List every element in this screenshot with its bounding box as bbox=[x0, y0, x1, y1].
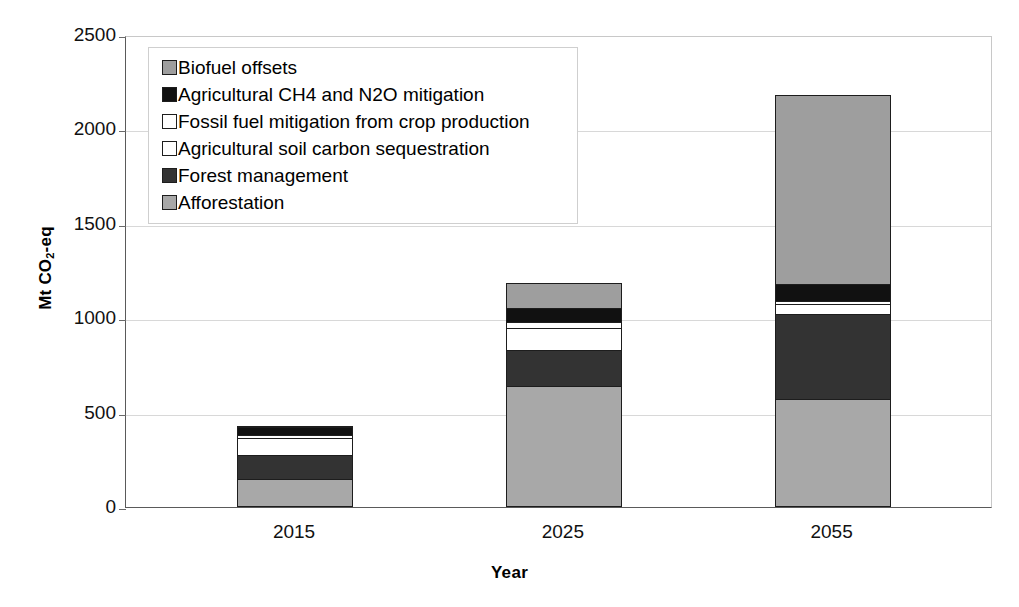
legend-label: Fossil fuel mitigation from crop product… bbox=[178, 112, 530, 131]
legend-swatch-icon bbox=[162, 114, 177, 129]
stacked-bar[interactable] bbox=[237, 426, 353, 507]
legend-swatch-icon bbox=[162, 195, 177, 210]
legend-label: Afforestation bbox=[178, 193, 284, 212]
legend-label: Forest management bbox=[178, 166, 348, 185]
y-axis-tick-label: 0 bbox=[38, 496, 116, 518]
bar-segment[interactable] bbox=[237, 438, 353, 456]
bar-segment[interactable] bbox=[237, 479, 353, 507]
legend-swatch-icon bbox=[162, 141, 177, 156]
y-axis-tick bbox=[119, 415, 126, 416]
bar-segment[interactable] bbox=[506, 328, 622, 352]
legend-item[interactable]: Afforestation bbox=[149, 189, 577, 216]
y-axis-tick bbox=[119, 37, 126, 38]
bar-segment[interactable] bbox=[506, 386, 622, 507]
y-axis-tick-label: 1000 bbox=[38, 307, 116, 329]
stacked-bar[interactable] bbox=[775, 95, 891, 507]
y-axis-tick bbox=[119, 320, 126, 321]
y-axis-tick-labels: 05001000150020002500 bbox=[38, 36, 116, 508]
legend-swatch-icon bbox=[162, 87, 177, 102]
y-axis-tick-label: 500 bbox=[38, 402, 116, 424]
bar-segment[interactable] bbox=[506, 283, 622, 309]
legend-label: Biofuel offsets bbox=[178, 58, 297, 77]
bar-segment[interactable] bbox=[506, 350, 622, 387]
y-axis-tick-label: 2500 bbox=[38, 24, 116, 46]
legend-item[interactable]: Forest management bbox=[149, 162, 577, 189]
bar-segment[interactable] bbox=[775, 314, 891, 401]
x-axis-tick-label: 2025 bbox=[503, 521, 623, 543]
bar-segment[interactable] bbox=[506, 308, 622, 323]
stacked-bar[interactable] bbox=[506, 283, 622, 507]
y-axis-tick bbox=[119, 509, 126, 510]
y-axis-tick bbox=[119, 226, 126, 227]
bar-segment[interactable] bbox=[775, 95, 891, 286]
y-axis-tick bbox=[119, 131, 126, 132]
legend-label: Agricultural CH4 and N2O mitigation bbox=[178, 85, 484, 104]
legend-item[interactable]: Agricultural soil carbon sequestration bbox=[149, 135, 577, 162]
legend-item[interactable]: Fossil fuel mitigation from crop product… bbox=[149, 108, 577, 135]
y-axis-tick-label: 2000 bbox=[38, 118, 116, 140]
y-axis-tick-label: 1500 bbox=[38, 213, 116, 235]
legend-swatch-icon bbox=[162, 60, 177, 75]
bar-segment[interactable] bbox=[775, 399, 891, 507]
legend-item[interactable]: Agricultural CH4 and N2O mitigation bbox=[149, 81, 577, 108]
x-axis-title: Year bbox=[0, 563, 1019, 583]
stacked-bar-chart: Mt CO2-eq 05001000150020002500 201520252… bbox=[0, 0, 1019, 607]
legend-label: Agricultural soil carbon sequestration bbox=[178, 139, 490, 158]
legend: Biofuel offsetsAgricultural CH4 and N2O … bbox=[148, 47, 578, 224]
x-axis-tick-label: 2015 bbox=[234, 521, 354, 543]
bar-segment[interactable] bbox=[775, 284, 891, 302]
legend-item[interactable]: Biofuel offsets bbox=[149, 54, 577, 81]
bar-segment[interactable] bbox=[237, 455, 353, 480]
x-axis-tick-label: 2055 bbox=[772, 521, 892, 543]
legend-swatch-icon bbox=[162, 168, 177, 183]
